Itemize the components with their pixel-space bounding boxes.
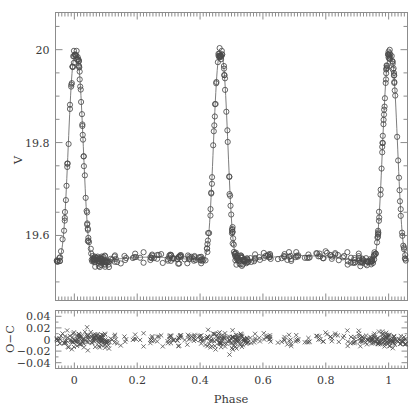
residual-point: [358, 344, 362, 348]
residual-point: [262, 331, 266, 335]
residual-point: [253, 332, 257, 336]
residual-point: [86, 348, 90, 352]
residual-point: [258, 339, 262, 343]
residual-ytick-label: −0.04: [17, 357, 51, 370]
residual-point: [294, 333, 298, 337]
residual-point: [345, 328, 349, 332]
x-tick-label: 0: [71, 374, 78, 387]
residual-panel-datapoints: [55, 325, 408, 357]
data-point: [323, 249, 328, 254]
x-axis-tick-labels: 00.20.40.60.81: [71, 374, 392, 387]
main-ytick-label: 20: [36, 44, 50, 57]
x-tick-label: 0.8: [317, 374, 335, 387]
residual-point: [65, 328, 69, 332]
residual-point: [141, 331, 145, 335]
main-panel-datapoints: [54, 45, 408, 269]
residual-point: [138, 338, 142, 342]
main-panel-ylabel: V: [11, 155, 25, 165]
main-ytick-label: 19.6: [25, 229, 50, 242]
residual-point: [183, 338, 187, 342]
residual-point: [155, 339, 159, 343]
main-panel-ytick-labels: 19.619.820: [25, 44, 50, 243]
model-curve: [56, 53, 408, 261]
residual-point: [185, 343, 189, 347]
main-ytick-label: 19.8: [25, 137, 50, 150]
residual-point: [93, 345, 97, 349]
data-point: [230, 241, 235, 246]
residual-point: [107, 346, 111, 350]
residual-point: [141, 344, 145, 348]
data-point: [205, 249, 210, 254]
residual-point: [169, 334, 173, 338]
residual-point: [336, 333, 340, 337]
residual-point: [287, 333, 291, 337]
residual-point: [342, 334, 346, 338]
residual-point: [289, 338, 293, 342]
residual-point: [206, 328, 210, 332]
residual-panel: 0.040.020−0.02−0.04 O−C: [3, 310, 408, 369]
x-axis-label: Phase: [214, 392, 249, 406]
residual-point: [230, 328, 234, 332]
data-point: [345, 250, 350, 255]
residual-point: [337, 340, 341, 344]
residual-point: [325, 332, 329, 336]
data-point: [141, 250, 146, 255]
x-tick-label: 0.6: [254, 374, 272, 387]
residual-point: [60, 331, 64, 335]
residual-point: [234, 346, 238, 350]
residual-point: [365, 342, 369, 346]
x-tick-label: 0.2: [128, 374, 146, 387]
light-curve-figure: 19.619.820 V 0.040.020−0.02−0.04 O−C 00.…: [0, 0, 419, 409]
residual-point: [72, 330, 76, 334]
x-axis: 00.20.40.60.81 Phase: [71, 374, 392, 407]
data-point: [141, 260, 146, 265]
residual-point: [98, 345, 102, 349]
residual-point: [306, 336, 310, 340]
residual-point: [230, 346, 234, 350]
data-point: [275, 257, 280, 262]
x-tick-label: 1: [385, 374, 392, 387]
residual-point: [133, 333, 137, 337]
residual-point: [214, 347, 218, 351]
residual-point: [303, 340, 307, 344]
data-point: [160, 260, 165, 265]
residual-point: [161, 344, 165, 348]
data-point: [133, 251, 138, 256]
residual-point: [72, 345, 76, 349]
main-panel: 19.619.820 V: [11, 13, 408, 301]
residual-point: [276, 341, 280, 345]
residual-panel-ytick-labels: 0.040.020−0.02−0.04: [17, 310, 51, 369]
x-tick-label: 0.4: [191, 374, 209, 387]
residual-point: [213, 344, 217, 348]
residual-point: [388, 344, 392, 348]
plot-canvas: 19.619.820 V 0.040.020−0.02−0.04 O−C 00.…: [0, 0, 419, 409]
residual-point: [82, 345, 86, 349]
residual-point: [85, 325, 89, 329]
residual-panel-ylabel: O−C: [3, 325, 17, 353]
residual-point: [227, 352, 231, 356]
residual-point: [119, 343, 123, 347]
